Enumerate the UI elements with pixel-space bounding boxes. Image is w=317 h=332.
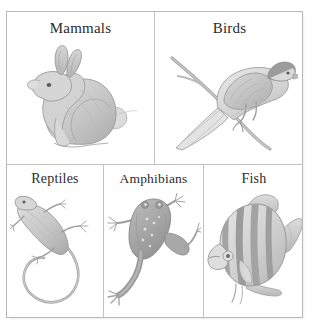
chart-row-top: Mammals (7, 12, 302, 164)
cell-mammals[interactable]: Mammals (7, 12, 154, 164)
cell-label-reptiles: Reptiles (31, 172, 78, 186)
chart-row-bottom: Reptiles (7, 164, 302, 317)
frog-illustration (104, 186, 203, 318)
chart-frame: Mammals (6, 11, 303, 318)
lizard-illustration (7, 186, 103, 317)
bird-illustration (155, 36, 304, 164)
figure-root: Mammals (0, 0, 317, 332)
rabbit-illustration (7, 36, 154, 164)
cell-label-mammals: Mammals (50, 21, 111, 36)
cell-birds[interactable]: Birds (154, 12, 304, 164)
cell-fish[interactable]: Fish (203, 165, 304, 317)
cell-label-birds: Birds (213, 21, 247, 36)
cell-label-amphibians: Amphibians (120, 172, 188, 186)
cell-amphibians[interactable]: Amphibians (103, 165, 203, 317)
cell-reptiles[interactable]: Reptiles (7, 165, 103, 317)
fish-illustration (204, 186, 304, 317)
cell-label-fish: Fish (242, 172, 267, 186)
